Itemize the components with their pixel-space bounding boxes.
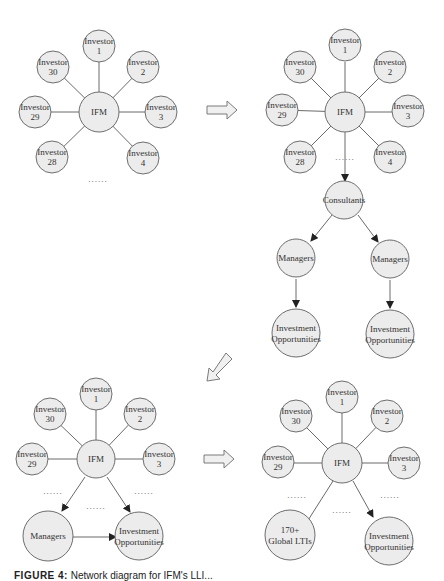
- transition-arrow-right-icon: [207, 101, 237, 119]
- svg-text:Investment: Investment: [119, 526, 159, 536]
- svg-text:Managers: Managers: [278, 253, 314, 263]
- investor-2: Investor 2: [127, 51, 159, 83]
- svg-text:1: 1: [94, 394, 99, 404]
- managers-node-right: Managers: [371, 240, 409, 278]
- svg-text:28: 28: [48, 157, 58, 167]
- svg-text:29: 29: [28, 459, 38, 469]
- svg-text:28: 28: [296, 157, 306, 167]
- managers-node: Managers: [23, 511, 73, 561]
- svg-text:3: 3: [402, 463, 407, 473]
- svg-text:30: 30: [46, 414, 56, 424]
- svg-text:Consultants: Consultants: [323, 195, 366, 205]
- svg-text:3: 3: [157, 459, 162, 469]
- svg-text:30: 30: [49, 67, 59, 77]
- investor-29: Investor 29: [262, 446, 294, 478]
- ellipsis-left: ......: [43, 486, 63, 496]
- investment-opportunities-node: Investment Opportunities: [114, 512, 164, 560]
- svg-text:Managers: Managers: [372, 254, 408, 264]
- ellipsis-left: ......: [287, 490, 307, 500]
- svg-text:Opportunities: Opportunities: [364, 542, 414, 552]
- svg-text:Opportunities: Opportunities: [271, 334, 321, 344]
- panel-1: IFM Investor 1 Investor 2 Investor 3 Inv…: [19, 30, 177, 184]
- svg-text:Investor: Investor: [17, 449, 47, 459]
- panel-2: IFM Investor 1 Investor 2 Investor 3 Inv…: [266, 29, 424, 358]
- transition-arrow-right-icon: [204, 450, 234, 468]
- svg-text:Investor: Investor: [375, 57, 405, 67]
- svg-text:Global LTIs: Global LTIs: [268, 536, 312, 546]
- investment-opportunities-right: Investment Opportunities: [365, 310, 415, 358]
- svg-text:29: 29: [274, 462, 284, 472]
- svg-text:Investor: Investor: [285, 147, 315, 157]
- svg-text:Investor: Investor: [128, 57, 158, 67]
- svg-text:Investor: Investor: [327, 387, 357, 397]
- svg-text:Investment: Investment: [369, 531, 409, 541]
- svg-text:Investor: Investor: [375, 147, 405, 157]
- svg-text:29: 29: [31, 112, 41, 122]
- investment-opportunities-left: Investment Opportunities: [271, 309, 321, 357]
- svg-text:Investor: Investor: [81, 384, 111, 394]
- investor-29: Investor 29: [19, 96, 51, 128]
- ellipsis-center: ......: [332, 505, 352, 515]
- svg-text:2: 2: [141, 67, 146, 77]
- svg-text:Investor: Investor: [281, 406, 311, 416]
- transition-arrow-down-left-icon: [207, 353, 232, 381]
- svg-text:170+: 170+: [281, 525, 300, 535]
- svg-text:Investor: Investor: [20, 102, 50, 112]
- svg-text:Investor: Investor: [35, 404, 65, 414]
- svg-text:Investor: Investor: [144, 449, 174, 459]
- investor-29: Investor 29: [266, 94, 298, 126]
- svg-text:Opportunities: Opportunities: [114, 537, 164, 547]
- svg-text:Investor: Investor: [128, 148, 158, 158]
- svg-text:1: 1: [343, 45, 348, 55]
- investor-2: Investor 2: [371, 400, 403, 432]
- svg-text:Investor: Investor: [330, 35, 360, 45]
- svg-text:IFM: IFM: [88, 454, 104, 464]
- svg-text:2: 2: [138, 414, 143, 424]
- svg-text:Investor: Investor: [146, 102, 176, 112]
- svg-text:Investor: Investor: [372, 406, 402, 416]
- ellipsis-right: ......: [380, 490, 400, 500]
- svg-text:IFM: IFM: [337, 107, 353, 117]
- svg-text:3: 3: [159, 112, 164, 122]
- investor-2: Investor 2: [124, 398, 156, 430]
- investor-28: Investor 28: [36, 141, 68, 173]
- svg-text:3: 3: [406, 111, 411, 121]
- investment-opportunities-node: Investment Opportunities: [364, 517, 414, 565]
- figure-caption-text: Network diagram for IFM's LLI...: [71, 570, 213, 581]
- svg-text:Investor: Investor: [37, 147, 67, 157]
- svg-text:Investor: Investor: [285, 57, 315, 67]
- investor-30: Investor 30: [280, 400, 312, 432]
- investor-30: Investor 30: [34, 398, 66, 430]
- svg-text:Investor: Investor: [393, 101, 423, 111]
- investor-4: Investor 4: [374, 141, 406, 173]
- svg-text:1: 1: [340, 397, 345, 407]
- investor-3: Investor 3: [388, 447, 420, 479]
- investor-3: Investor 3: [392, 95, 424, 127]
- svg-text:Investor: Investor: [389, 453, 419, 463]
- ellipsis-right: ......: [134, 486, 154, 496]
- figure-caption: FIGURE 4: Network diagram for IFM's LLI.…: [14, 570, 213, 581]
- hub-ifm: IFM: [77, 440, 115, 478]
- hub-ifm: IFM: [322, 443, 362, 483]
- svg-text:Managers: Managers: [30, 531, 66, 541]
- panel-3: IFM Investor 1 Investor 2 Investor 3 Inv…: [16, 378, 175, 561]
- investor-1: Investor 1: [326, 381, 358, 413]
- svg-text:2: 2: [388, 67, 393, 77]
- hub-ifm: IFM: [79, 92, 119, 132]
- investor-30: Investor 30: [284, 51, 316, 83]
- investor-3: Investor 3: [143, 443, 175, 475]
- svg-text:IFM: IFM: [91, 107, 107, 117]
- svg-text:Investor: Investor: [267, 100, 297, 110]
- svg-text:4: 4: [388, 157, 393, 167]
- investor-1: Investor 1: [329, 29, 361, 61]
- consultants-node: Consultants: [323, 181, 366, 219]
- figure-caption-label: FIGURE 4:: [14, 570, 68, 581]
- investor-3: Investor 3: [145, 96, 177, 128]
- ellipsis-center: ......: [86, 501, 106, 511]
- svg-text:Investment: Investment: [276, 323, 316, 333]
- svg-text:2: 2: [385, 416, 390, 426]
- investor-1: Investor 1: [80, 378, 112, 410]
- investor-30: Investor 30: [37, 51, 69, 83]
- svg-text:Investor: Investor: [84, 36, 114, 46]
